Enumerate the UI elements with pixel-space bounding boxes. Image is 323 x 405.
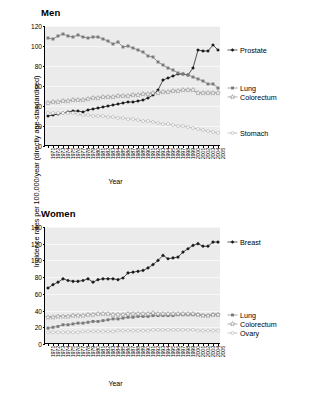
y-axis-tick-label: 120 <box>31 23 42 30</box>
chart-title-men: Men <box>41 7 60 18</box>
y-axis-tick-mark <box>43 344 46 345</box>
series-lung <box>47 33 220 90</box>
y-axis-tick-label: 20 <box>35 123 42 130</box>
y-axis-tick-mark <box>43 146 46 147</box>
x-axis-title-men: Year <box>0 178 277 185</box>
chart-panel-men: Men 020406080100120197119721973197419751… <box>0 0 323 200</box>
x-axis-tick-label: 2005 <box>220 148 226 159</box>
legend-label: Breast <box>240 238 261 247</box>
plot-area-men: 0204060801001201971197219731974197519761… <box>44 26 220 146</box>
series-stomach <box>47 112 220 135</box>
chart-title-women: Women <box>41 208 76 219</box>
legend-label: Colorectum <box>240 93 277 102</box>
series-prostate <box>46 43 220 118</box>
y-axis-tick-label: 60 <box>35 83 42 90</box>
plot-area-women: 0204060801001201401971197219731974197519… <box>44 227 220 344</box>
y-axis-tick-label: 80 <box>35 63 42 70</box>
series-layer <box>45 26 221 146</box>
legend-label: Colorectum <box>240 319 277 328</box>
y-axis-tick-label: 140 <box>31 224 42 231</box>
legend-label: Lung <box>240 84 256 93</box>
series-breast <box>46 240 220 290</box>
series-ovary <box>47 328 220 334</box>
chart-panel-women: Women 0204060801001201401971197219731974… <box>0 200 323 405</box>
y-axis-tick-label: 100 <box>31 43 42 50</box>
y-axis-tick-label: 40 <box>35 307 42 314</box>
y-axis-tick-label: 0 <box>38 143 42 150</box>
x-axis-title-women: Year <box>0 380 277 387</box>
y-axis-tick-label: 120 <box>31 240 42 247</box>
y-axis-tick-label: 80 <box>35 274 42 281</box>
y-axis-tick-label: 0 <box>38 341 42 348</box>
legend-label: Stomach <box>240 129 268 138</box>
legend-label: Lung <box>240 310 256 319</box>
y-axis-tick-label: 100 <box>31 257 42 264</box>
x-axis-tick-label: 2005 <box>220 346 226 357</box>
figure: Incidence rates per 100,000/year (direct… <box>0 0 323 405</box>
y-axis-tick-label: 40 <box>35 103 42 110</box>
legend-label: Prostate <box>240 46 267 55</box>
y-axis-tick-label: 20 <box>35 324 42 331</box>
y-axis-tick-label: 60 <box>35 290 42 297</box>
series-layer <box>45 227 221 344</box>
legend-label: Ovary <box>240 328 259 337</box>
